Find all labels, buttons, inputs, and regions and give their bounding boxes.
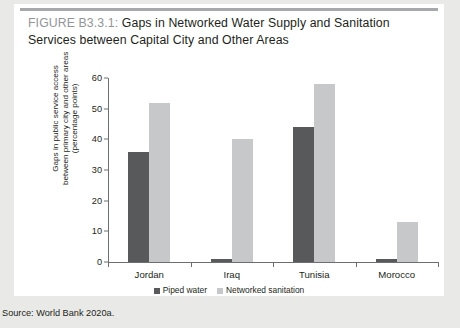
x-axis-tick-mark [273, 262, 274, 267]
bar-group [273, 78, 356, 262]
y-axis-tick-mark [104, 108, 108, 109]
bar[interactable] [293, 127, 314, 262]
y-axis-tick-label: 50 [76, 104, 102, 114]
x-axis-tick-mark [108, 262, 109, 267]
x-axis-tick-mark [191, 262, 192, 267]
legend-item[interactable]: Networked sanitation [217, 285, 304, 295]
bar-group [108, 78, 191, 262]
y-axis-title-line-1: Gaps in public service access [51, 18, 61, 218]
chart-legend: Piped waterNetworked sanitation [14, 285, 444, 295]
bar-group [356, 78, 439, 262]
x-axis-category-label: Iraq [191, 269, 274, 280]
y-axis-tick-label: 60 [76, 73, 102, 83]
legend-swatch [217, 288, 223, 294]
y-axis-tick-label: 30 [76, 165, 102, 175]
source-note: Source: World Bank 2020a. [2, 308, 114, 318]
y-axis-tick-mark [104, 200, 108, 201]
x-axis-category-label: Jordan [108, 269, 191, 280]
x-axis-category-label: Morocco [356, 269, 439, 280]
bar[interactable] [232, 139, 253, 262]
y-axis-title-line-2: between primary city and other areas [60, 18, 70, 218]
bar[interactable] [211, 259, 232, 262]
y-axis-tick-mark [104, 231, 108, 232]
legend-label: Networked sanitation [226, 285, 304, 295]
y-axis-tick-mark [104, 170, 108, 171]
y-axis-tick-label: 40 [76, 134, 102, 144]
bar[interactable] [376, 259, 397, 262]
y-axis-tick-label: 0 [76, 257, 102, 267]
x-axis-tick-mark [438, 262, 439, 267]
bars-container [108, 78, 438, 262]
y-axis-tick-mark [104, 139, 108, 140]
y-axis-tick-mark [104, 78, 108, 79]
legend-swatch [154, 288, 160, 294]
y-axis-tick-label: 10 [76, 226, 102, 236]
bar[interactable] [397, 222, 418, 262]
x-axis-category-label: Tunisia [273, 269, 356, 280]
bar[interactable] [149, 103, 170, 262]
legend-label: Piped water [163, 285, 207, 295]
bar-group [191, 78, 274, 262]
y-axis-tick-label: 20 [76, 196, 102, 206]
x-axis-tick-mark [356, 262, 357, 267]
legend-item[interactable]: Piped water [154, 285, 207, 295]
bar[interactable] [128, 152, 149, 262]
bar[interactable] [314, 84, 335, 262]
chart-plot-area: Gaps in public service access between pr… [14, 4, 444, 296]
y-axis-labels: 0102030405060 [76, 72, 102, 267]
